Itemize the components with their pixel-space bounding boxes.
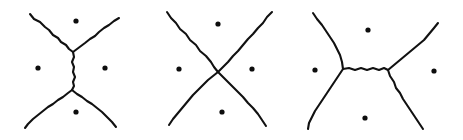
figure-root: Steiner network configurations joining f… [0, 0, 463, 140]
steiner-configurations-figure [0, 0, 463, 140]
crossed-x-configuration-right-dot [249, 66, 254, 71]
crossed-x-configuration-bottom-dot [219, 109, 224, 114]
horizontal-steiner-tree-top-dot [365, 27, 370, 32]
horizontal-steiner-tree-right-dot [431, 68, 436, 73]
vertical-steiner-tree-top-dot [73, 18, 78, 23]
crossed-x-configuration-top-dot [215, 21, 220, 26]
vertical-steiner-tree-right-dot [102, 65, 107, 70]
horizontal-steiner-tree-bottom-dot [362, 115, 367, 120]
vertical-steiner-tree-left-dot [35, 65, 40, 70]
crossed-x-configuration-left-dot [176, 66, 181, 71]
vertical-steiner-tree-bottom-dot [73, 109, 78, 114]
figure-background [0, 0, 463, 140]
horizontal-steiner-tree-left-dot [312, 67, 317, 72]
